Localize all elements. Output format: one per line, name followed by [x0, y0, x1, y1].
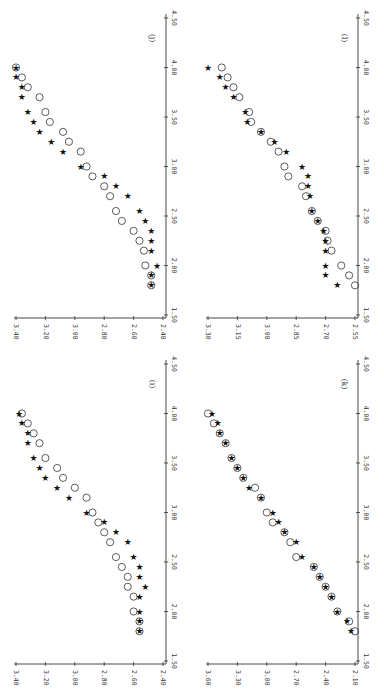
data-point-star: ★ [77, 162, 85, 172]
scatter-plot: 1.502.002.503.003.504.004.503.403.203.00… [0, 346, 192, 691]
x-tick-label: 2.00 [362, 604, 370, 620]
data-point-star: ★ [306, 191, 314, 201]
data-point-circle [281, 163, 288, 170]
y-tick-label: 2.70 [292, 670, 300, 686]
data-point-star: ★ [135, 616, 143, 626]
data-point-circle [124, 583, 131, 590]
data-point-star: ★ [130, 552, 138, 562]
data-point-circle [59, 128, 66, 135]
data-point-star: ★ [24, 107, 32, 117]
data-point-circle [218, 64, 225, 71]
data-point-circle [118, 563, 125, 570]
x-tick-label: 4.50 [362, 10, 370, 26]
data-point-circle [89, 173, 96, 180]
data-point-star: ★ [322, 261, 330, 271]
y-tick-label: 3.30 [234, 670, 242, 686]
x-tick-label: 3.00 [362, 159, 370, 175]
data-point-star: ★ [227, 453, 235, 463]
data-point-star: ★ [304, 171, 312, 181]
y-tick-label: 3.30 [204, 324, 212, 340]
y-tick-label: 2.40 [322, 670, 330, 686]
y-tick-label: 2.55 [351, 324, 359, 340]
data-point-circle [118, 217, 125, 224]
y-tick-label: 2.70 [322, 324, 330, 340]
data-point-star: ★ [112, 527, 120, 537]
x-tick-label: 4.00 [170, 60, 178, 76]
data-point-star: ★ [135, 592, 143, 602]
x-tick-label: 3.00 [170, 505, 178, 521]
data-point-star: ★ [310, 562, 318, 572]
data-point-star: ★ [298, 162, 306, 172]
data-point-star: ★ [153, 261, 161, 271]
data-point-circle [346, 272, 353, 279]
data-point-circle [42, 108, 49, 115]
data-point-star: ★ [320, 226, 328, 236]
data-point-star: ★ [35, 463, 43, 473]
data-point-circle [106, 539, 113, 546]
x-tick-label: 2.50 [362, 554, 370, 570]
data-point-star: ★ [216, 428, 224, 438]
data-point-circle [77, 148, 84, 155]
data-point-star: ★ [53, 483, 61, 493]
data-point-circle [130, 227, 137, 234]
data-point-star: ★ [135, 626, 143, 636]
data-point-star: ★ [322, 236, 330, 246]
data-point-star: ★ [333, 280, 341, 290]
data-point-circle [285, 173, 292, 180]
data-point-circle [54, 464, 61, 471]
data-point-circle [101, 183, 108, 190]
data-point-star: ★ [147, 246, 155, 256]
data-point-circle [112, 553, 119, 560]
data-point-star: ★ [65, 493, 73, 503]
data-point-star: ★ [41, 473, 49, 483]
panel-label: (i) [148, 380, 157, 389]
data-point-star: ★ [141, 216, 149, 226]
data-point-circle [59, 474, 66, 481]
data-point-circle [124, 573, 131, 580]
y-tick-label: 3.00 [71, 670, 79, 686]
data-point-star: ★ [308, 206, 316, 216]
data-point-star: ★ [298, 552, 306, 562]
data-point-star: ★ [30, 117, 38, 127]
data-point-star: ★ [347, 626, 355, 636]
data-point-circle [36, 440, 43, 447]
data-point-star: ★ [216, 72, 224, 82]
data-point-star: ★ [124, 537, 132, 547]
data-point-star: ★ [233, 463, 241, 473]
data-point-star: ★ [147, 270, 155, 280]
data-point-star: ★ [222, 82, 230, 92]
data-point-star: ★ [141, 582, 149, 592]
data-point-star: ★ [12, 72, 20, 82]
data-point-circle [46, 118, 53, 125]
data-point-circle [36, 94, 43, 101]
chart-panel-l: 1.502.002.503.003.504.004.503.303.153.00… [192, 0, 384, 345]
data-point-star: ★ [147, 280, 155, 290]
data-point-star: ★ [222, 438, 230, 448]
y-tick-label: 2.85 [292, 324, 300, 340]
data-point-circle [112, 207, 119, 214]
x-tick-label: 1.50 [362, 653, 370, 669]
data-point-star: ★ [322, 246, 330, 256]
data-point-star: ★ [292, 537, 300, 547]
data-point-circle [338, 262, 345, 269]
data-point-star: ★ [333, 607, 341, 617]
data-point-circle [71, 484, 78, 491]
data-point-star: ★ [135, 206, 143, 216]
data-point-star: ★ [15, 409, 23, 419]
data-point-star: ★ [135, 562, 143, 572]
chart-panel-i: 1.502.002.503.003.504.004.503.403.203.00… [0, 346, 192, 691]
data-point-circle [106, 193, 113, 200]
y-tick-label: 3.00 [263, 324, 271, 340]
data-point-star: ★ [322, 582, 330, 592]
data-point-star: ★ [35, 127, 43, 137]
data-point-star: ★ [257, 127, 265, 137]
x-tick-label: 3.00 [362, 505, 370, 521]
data-point-circle [83, 494, 90, 501]
data-point-star: ★ [304, 181, 312, 191]
data-point-star: ★ [316, 572, 324, 582]
x-tick-label: 3.50 [362, 455, 370, 471]
data-point-star: ★ [147, 226, 155, 236]
data-point-star: ★ [59, 147, 67, 157]
data-point-star: ★ [241, 107, 249, 117]
x-tick-label: 1.50 [170, 653, 178, 669]
